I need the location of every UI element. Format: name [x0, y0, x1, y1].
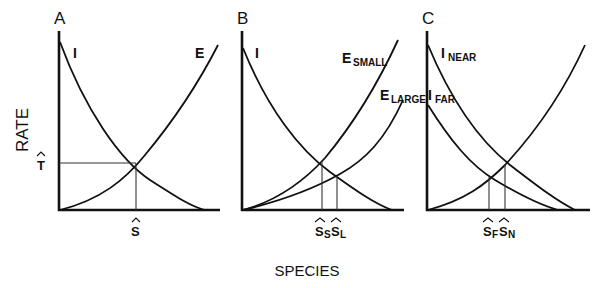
- svg-text:S: S: [483, 224, 492, 239]
- panel-a-immigration-curve: [60, 42, 205, 210]
- panel-a-s-hat: S: [131, 218, 140, 239]
- svg-text:S: S: [324, 229, 331, 240]
- svg-text:L: L: [340, 229, 346, 240]
- figure-canvas: RATE A I E T S B I E SMAL: [0, 0, 598, 288]
- panel-a: A I E T S: [37, 9, 220, 239]
- panel-b-extinction-large-curve: [243, 100, 403, 210]
- svg-text:S: S: [131, 224, 140, 239]
- panel-a-t-hat: T: [37, 152, 45, 173]
- svg-text:N: N: [508, 229, 515, 240]
- svg-text:S: S: [315, 224, 324, 239]
- hat-icon: [483, 218, 493, 222]
- hat-icon: [315, 218, 325, 222]
- panel-c-s-hat-near: S N: [499, 218, 515, 240]
- panel-a-letter: A: [54, 9, 66, 28]
- panel-b-label-i: I: [255, 45, 259, 61]
- svg-text:NEAR: NEAR: [448, 52, 477, 63]
- svg-text:SMALL: SMALL: [353, 57, 387, 68]
- panel-c: C I NEAR I FAR S F S N: [422, 9, 590, 240]
- panel-c-extinction-curve: [428, 45, 585, 210]
- panel-c-immigration-near-curve: [428, 45, 575, 210]
- svg-text:E: E: [342, 50, 351, 66]
- svg-text:S: S: [331, 224, 340, 239]
- hat-icon: [331, 218, 341, 222]
- hat-icon: [499, 218, 509, 222]
- panel-b-s-hat-small: S S: [315, 218, 331, 240]
- hat-icon: [37, 152, 45, 156]
- panel-a-extinction-curve: [60, 45, 218, 210]
- svg-text:T: T: [37, 158, 45, 173]
- panel-c-label-i-far: I FAR: [428, 87, 456, 105]
- x-axis-label: SPECIES: [274, 262, 339, 279]
- panel-a-label-i: I: [73, 45, 77, 61]
- svg-text:S: S: [499, 224, 508, 239]
- island-biogeography-figure: RATE A I E T S B I E SMAL: [0, 0, 598, 288]
- panel-c-s-hat-far: S F: [483, 218, 498, 240]
- panel-b: B I E SMALL E LARGE S S S L: [237, 9, 426, 240]
- y-axis-label: RATE: [13, 108, 32, 152]
- panel-a-label-e: E: [195, 45, 204, 61]
- panel-c-label-i-near: I NEAR: [441, 45, 477, 63]
- panel-b-label-e-large: E LARGE: [380, 87, 426, 105]
- panel-b-label-e-small: E SMALL: [342, 50, 387, 68]
- svg-text:LARGE: LARGE: [391, 94, 426, 105]
- svg-text:E: E: [380, 87, 389, 103]
- svg-text:I: I: [428, 87, 432, 103]
- svg-text:FAR: FAR: [435, 94, 456, 105]
- svg-text:I: I: [441, 45, 445, 61]
- hat-icon: [132, 218, 140, 222]
- panel-b-letter: B: [237, 9, 248, 28]
- svg-text:F: F: [492, 229, 498, 240]
- panel-c-letter: C: [422, 9, 434, 28]
- panel-b-s-hat-large: S L: [331, 218, 346, 240]
- panel-c-immigration-far-curve: [428, 105, 558, 210]
